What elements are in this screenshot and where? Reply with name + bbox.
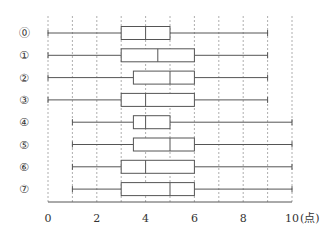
box-plot-row [48, 27, 268, 40]
x-tick-label: 4 [142, 212, 149, 225]
box-plot-row [72, 138, 292, 151]
iqr-box [133, 71, 194, 84]
x-tick-label: 8 [240, 212, 247, 225]
iqr-box [133, 138, 194, 151]
x-tick-label: 10 [285, 212, 299, 225]
x-tick-label: 6 [191, 212, 198, 225]
x-tick-label: 0 [45, 212, 52, 225]
x-tick-label: 2 [93, 212, 100, 225]
x-axis-ticks: 0246810 [45, 212, 300, 225]
box-plots [48, 27, 292, 196]
box-plot-row [72, 183, 292, 196]
gridlines [48, 16, 292, 202]
row-label: ⑦ [19, 183, 29, 196]
box-plot-row [72, 116, 292, 129]
box-plot-chart: ⓪①②③④⑤⑥⑦ 0246810 (点) [0, 0, 323, 231]
iqr-box [133, 116, 170, 129]
row-label: ② [19, 72, 29, 85]
row-label: ⑥ [19, 161, 29, 174]
iqr-box [121, 160, 194, 173]
row-label: ⑤ [19, 139, 29, 152]
row-labels: ⓪①②③④⑤⑥⑦ [19, 27, 30, 196]
row-label: ⓪ [19, 27, 30, 40]
box-plot-row [48, 49, 268, 62]
box-plot-row [72, 160, 292, 173]
box-plot-row [48, 93, 268, 106]
box-plot-row [48, 71, 268, 84]
row-label: ④ [19, 116, 29, 129]
iqr-box [121, 183, 194, 196]
iqr-box [121, 93, 194, 106]
x-axis-unit-label: (点) [300, 212, 320, 225]
row-label: ① [19, 49, 29, 62]
row-label: ③ [19, 94, 29, 107]
